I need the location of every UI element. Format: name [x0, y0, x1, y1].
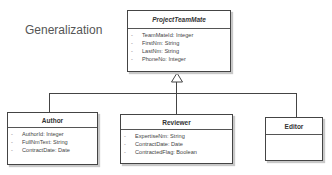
attribute-text: FullNmText: String — [22, 139, 68, 145]
attribute: -ExpertiseNm: String — [124, 132, 232, 140]
attribute-text: ContractDate: Date — [22, 147, 70, 153]
visibility-marker: - — [11, 138, 22, 146]
generalization-trunk-line — [176, 82, 177, 115]
visibility-marker: - — [124, 132, 135, 140]
class-editor[interactable]: Editor — [265, 117, 323, 161]
attribute: -ContractedFlag: Boolean — [124, 148, 232, 156]
class-name: Author — [8, 113, 97, 128]
attribute-text: ExpertiseNm: String — [135, 133, 185, 139]
editor-connector-line — [296, 93, 297, 117]
attribute-text: PhoneNo: Integer — [142, 56, 186, 62]
attribute-text: FirstNm: String — [142, 40, 179, 46]
attribute-text: ContractedFlag: Boolean — [135, 149, 197, 155]
visibility-marker: - — [131, 55, 142, 63]
attribute: -FirstNm: String — [131, 39, 230, 47]
attribute: -ContractDate: Date — [124, 140, 232, 148]
attribute-list: -TeamMateId: Integer -FirstNm: String -L… — [128, 29, 230, 63]
attribute: -ContractDate: Date — [11, 146, 97, 154]
class-name: Editor — [266, 118, 322, 135]
class-project-team-mate[interactable]: ProjectTeamMate -TeamMateId: Integer -Fi… — [127, 10, 231, 72]
visibility-marker: - — [11, 146, 22, 154]
attribute-list: -ExpertiseNm: String -ContractDate: Date… — [121, 130, 232, 156]
visibility-marker: - — [11, 130, 22, 138]
class-author[interactable]: Author -AuthorId: Integer -FullNmText: S… — [7, 112, 98, 165]
author-connector-line — [49, 93, 50, 112]
class-name: Reviewer — [121, 115, 232, 130]
class-name: ProjectTeamMate — [128, 11, 230, 29]
generalization-arrow-icon — [170, 72, 184, 83]
generalization-branch-line — [49, 93, 297, 94]
visibility-marker: - — [131, 31, 142, 39]
attribute-text: TeamMateId: Integer — [142, 32, 193, 38]
visibility-marker: - — [131, 39, 142, 47]
class-reviewer[interactable]: Reviewer -ExpertiseNm: String -ContractD… — [120, 114, 233, 164]
visibility-marker: - — [124, 140, 135, 148]
attribute: -TeamMateId: Integer — [131, 31, 230, 39]
attribute-list — [266, 135, 322, 137]
visibility-marker: - — [124, 148, 135, 156]
attribute: -LastNm: String — [131, 47, 230, 55]
attribute: -AuthorId: Integer — [11, 130, 97, 138]
attribute-text: LastNm: String — [142, 48, 179, 54]
attribute-list: -AuthorId: Integer -FullNmText: String -… — [8, 128, 97, 154]
attribute-text: AuthorId: Integer — [22, 131, 64, 137]
attribute-text: ContractDate: Date — [135, 141, 183, 147]
attribute: -PhoneNo: Integer — [131, 55, 230, 63]
attribute: -FullNmText: String — [11, 138, 97, 146]
diagram-title: Generalization — [25, 23, 102, 37]
visibility-marker: - — [131, 47, 142, 55]
